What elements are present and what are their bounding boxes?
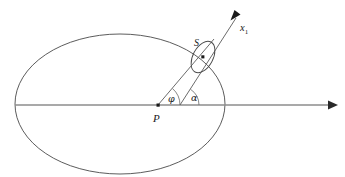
large-ellipse-orbit: [15, 34, 225, 174]
label-axis-x1: x1: [239, 22, 249, 36]
ellipse-diagram-svg: P S x1 φ α: [0, 0, 345, 177]
horizontal-axis-arrowhead: [328, 101, 338, 110]
point-P-marker: [157, 104, 160, 107]
label-small-ellipse-S: S: [194, 37, 199, 48]
point-S-marker: [201, 55, 204, 58]
label-angle-alpha: α: [191, 92, 198, 103]
x1-axis-ray: [180, 18, 236, 105]
label-axis-x1-subscript: 1: [245, 28, 249, 36]
label-angle-phi: φ: [168, 93, 175, 104]
label-point-P: P: [152, 112, 160, 124]
diagram-canvas: P S x1 φ α: [0, 0, 345, 177]
